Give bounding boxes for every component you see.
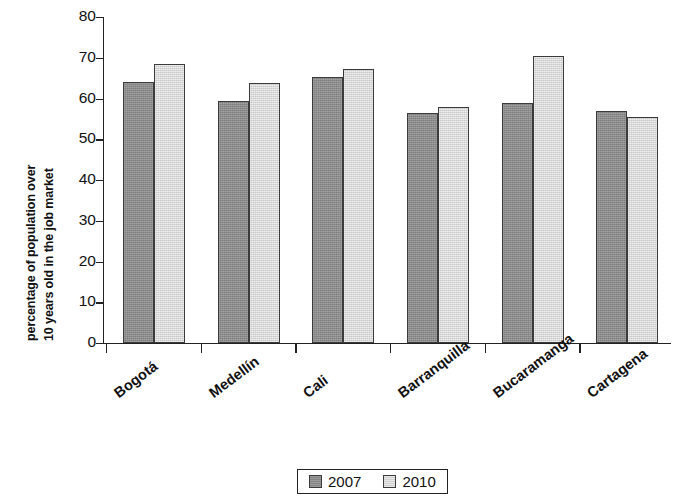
bar-group	[218, 17, 280, 343]
x-axis-label-cali: Cali	[300, 372, 331, 401]
x-axis-label-bogot: Bogotá	[111, 358, 161, 401]
bar-group	[596, 17, 658, 343]
legend-label-2007: 2007	[328, 474, 361, 489]
x-axis-line	[103, 343, 671, 344]
y-axis-tick	[96, 221, 103, 222]
y-axis-tick	[96, 262, 103, 263]
y-axis-line	[103, 17, 104, 343]
bar-cali-2010	[343, 69, 374, 343]
bar-group	[502, 17, 564, 343]
y-axis-tick	[96, 343, 103, 344]
bar-bogot-2010	[154, 64, 185, 343]
legend-entry-2010: 2010	[383, 474, 435, 489]
y-axis-tick-labels: 01020304050607080	[55, 17, 96, 343]
y-axis-tick	[96, 17, 103, 18]
x-axis-tick	[485, 344, 486, 353]
y-axis-tick	[96, 58, 103, 59]
bar-group	[123, 17, 185, 343]
x-axis-tick	[579, 344, 580, 353]
y-axis-tick	[96, 180, 103, 181]
bar-barranquilla-2007	[407, 113, 438, 343]
y-axis-tick-label: 40	[55, 170, 96, 188]
y-axis-title: percentage of population over 10 years o…	[6, 0, 52, 350]
x-axis-tick	[390, 344, 391, 353]
legend-entry-2007: 2007	[309, 474, 361, 489]
legend-label-2010: 2010	[402, 474, 435, 489]
legend-swatch-2010	[383, 475, 396, 488]
y-axis-tick-label: 0	[55, 333, 96, 351]
x-axis-tick	[295, 344, 296, 353]
y-axis-tick	[96, 99, 103, 100]
y-axis-title-line-1: percentage of population over	[23, 165, 40, 341]
y-axis-tick-label: 50	[55, 129, 96, 147]
legend-swatch-2007	[309, 475, 322, 488]
bar-cartagena-2010	[627, 117, 658, 343]
x-axis-label-barranquilla: Barranquilla	[395, 337, 472, 401]
bar-group	[312, 17, 374, 343]
x-axis-tick	[106, 344, 107, 353]
bar-group	[407, 17, 469, 343]
y-axis-tick-label: 80	[55, 7, 96, 25]
y-axis-tick-label: 20	[55, 252, 96, 270]
y-axis-tick-label: 60	[55, 89, 96, 107]
bar-medelln-2010	[249, 83, 280, 343]
bar-medelln-2007	[218, 101, 249, 343]
bar-cali-2007	[312, 77, 343, 343]
bar-barranquilla-2010	[438, 107, 469, 343]
y-axis-tick-label: 10	[55, 292, 96, 310]
y-axis-tick	[96, 139, 103, 140]
y-axis-tick-label: 30	[55, 211, 96, 229]
bar-chart: percentage of population over 10 years o…	[0, 0, 681, 499]
y-axis-tick-label: 70	[55, 48, 96, 66]
x-axis-label-medelln: Medellín	[206, 353, 262, 401]
bar-bogot-2007	[123, 82, 154, 343]
bar-bucaramanga-2007	[502, 103, 533, 343]
plot-area	[103, 17, 671, 343]
x-axis-tick	[201, 344, 202, 353]
y-axis-tick	[96, 302, 103, 303]
x-axis-label-cartagena: Cartagena	[584, 345, 650, 400]
chart-legend: 2007 2010	[297, 469, 448, 494]
bar-bucaramanga-2010	[533, 56, 564, 343]
bar-cartagena-2007	[596, 111, 627, 343]
